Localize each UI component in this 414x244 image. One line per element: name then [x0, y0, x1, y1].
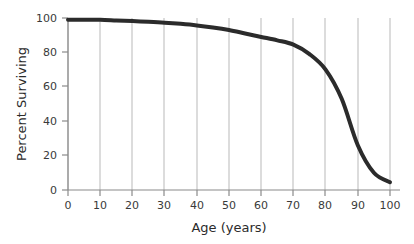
x-tick-label-40: 40	[190, 199, 204, 212]
y-axis-title: Percent Surviving	[14, 47, 29, 161]
y-tick-label-100: 100	[36, 12, 57, 25]
x-tick-label-50: 50	[222, 199, 236, 212]
x-tick-label-80: 80	[318, 199, 332, 212]
y-tick-label-40: 40	[43, 115, 57, 128]
x-tick-label-60: 60	[254, 199, 268, 212]
y-tick-label-60: 60	[43, 80, 57, 93]
x-tick-label-30: 30	[157, 199, 171, 212]
x-tick-label-100: 100	[380, 199, 401, 212]
x-tick-label-20: 20	[125, 199, 139, 212]
x-tick-label-10: 10	[93, 199, 107, 212]
x-tick-label-70: 70	[286, 199, 300, 212]
y-tick-label-80: 80	[43, 46, 57, 59]
x-axis-title: Age (years)	[191, 220, 266, 235]
y-tick-label-20: 20	[43, 149, 57, 162]
y-tick-label-0: 0	[50, 184, 57, 197]
survivorship-curve-figure: 0 20 40 60 80 100 0 10 20 30 40 50 60 70…	[0, 0, 414, 244]
x-tick-label-90: 90	[351, 199, 365, 212]
x-tick-label-0: 0	[65, 199, 72, 212]
chart-canvas: 0 20 40 60 80 100 0 10 20 30 40 50 60 70…	[0, 0, 414, 244]
